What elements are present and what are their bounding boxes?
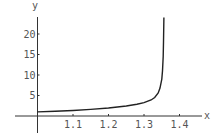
axes: 1.11.21.31.45101520: [15, 17, 202, 133]
y-axis-label: y: [32, 0, 38, 11]
data-curve: [38, 18, 164, 112]
y-tick-label: 15: [23, 49, 35, 60]
chart: 1.11.21.31.45101520 x y: [0, 0, 215, 139]
y-tick-label: 5: [29, 90, 35, 101]
x-tick-label: 1.2: [99, 119, 117, 130]
x-tick-label: 1.4: [170, 119, 188, 130]
y-tick-label: 10: [23, 70, 35, 81]
y-tick-label: 20: [23, 29, 35, 40]
x-axis-label: x: [204, 110, 210, 121]
x-tick-label: 1.1: [64, 119, 82, 130]
x-tick-label: 1.3: [135, 119, 153, 130]
